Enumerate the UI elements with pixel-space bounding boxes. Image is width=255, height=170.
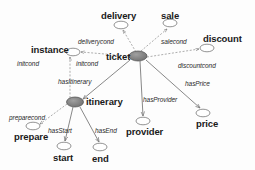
edge-itinerary-hasStart <box>65 107 73 141</box>
edge-label-ticket-discountcond: discountcond <box>178 63 216 70</box>
edge-label-itinerary-initcond: initcond <box>17 61 39 68</box>
node-label-discount: discount <box>203 34 242 44</box>
node-ellipse-ticket[interactable] <box>129 51 147 61</box>
node-ellipse-start[interactable] <box>57 142 71 150</box>
edge-label-itinerary-hasEnd: hasEnd <box>95 128 117 135</box>
diagram-canvas: deliverycondsaleconddiscountcondinitcond… <box>0 0 255 170</box>
node-label-prepare: prepare <box>14 132 48 142</box>
node-ellipse-provider[interactable] <box>136 117 150 125</box>
edge-label-ticket-hasItinerary: hasItinerary <box>58 79 91 86</box>
edge-label-ticket-hasPrice: hasPrice <box>185 81 210 88</box>
edge-label-ticket-hasProvider: hasProvider <box>143 97 177 104</box>
edge-ticket-discountcond <box>147 49 199 57</box>
node-ellipse-prepare[interactable] <box>26 122 40 130</box>
node-label-delivery: delivery <box>101 11 136 21</box>
edge-ticket-hasProvider <box>140 61 143 116</box>
node-label-itinerary: itinerary <box>86 97 123 107</box>
node-ellipse-price[interactable] <box>196 109 210 117</box>
node-label-end: end <box>92 154 109 164</box>
edge-label-itinerary-preparecond: preparecond <box>9 115 45 122</box>
node-ellipse-delivery[interactable] <box>114 21 128 29</box>
edge-label-ticket-deliverycond: deliverycond <box>78 39 114 46</box>
edge-itinerary-hasEnd <box>80 107 99 142</box>
node-label-ticket: ticket <box>106 52 130 62</box>
edge-label-ticket-initcond: initcond <box>76 61 98 68</box>
node-label-start: start <box>53 153 73 163</box>
node-ellipse-itinerary[interactable] <box>67 97 84 107</box>
node-label-instance: instance <box>31 45 69 55</box>
node-label-price: price <box>196 119 218 129</box>
node-ellipse-discount[interactable] <box>200 44 214 52</box>
node-ellipse-end[interactable] <box>93 143 107 151</box>
node-label-provider: provider <box>126 127 163 137</box>
edge-label-ticket-salecond: salecond <box>161 39 187 46</box>
node-label-sale: sale <box>161 11 179 21</box>
edge-ticket-deliverycond <box>123 30 136 52</box>
edge-label-itinerary-hasStart: hasStart <box>48 128 72 135</box>
graph-svg <box>0 0 255 170</box>
